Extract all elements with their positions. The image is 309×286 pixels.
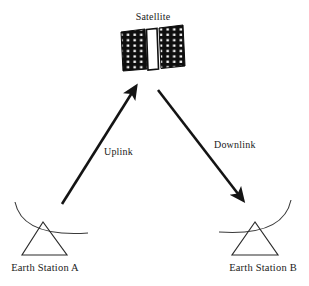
uplink-arrow[interactable]: Uplink — [62, 88, 135, 204]
satellite-left-solar-panel — [121, 29, 147, 71]
earth-station-a-dish-icon — [15, 202, 88, 234]
earth-station-a-tower-icon — [22, 222, 67, 255]
downlink-arrow[interactable]: Downlink — [158, 90, 256, 199]
satellite-right-solar-panel — [159, 25, 185, 69]
diagram-canvas: Satellite Uplink Downlink — [0, 0, 309, 286]
earth-station-b-tower-icon — [232, 222, 278, 255]
earth-station-b-label: Earth Station B — [229, 262, 297, 273]
earth-station-a-node[interactable]: Earth Station A — [11, 202, 88, 273]
satellite-body — [147, 29, 159, 71]
uplink-label: Uplink — [104, 146, 133, 157]
downlink-label: Downlink — [214, 139, 256, 150]
earth-station-b-dish-icon — [219, 200, 291, 232]
satellite-label: Satellite — [136, 11, 171, 22]
satellite-communication-diagram: Satellite Uplink Downlink — [0, 0, 309, 286]
earth-station-b-node[interactable]: Earth Station B — [219, 200, 297, 273]
earth-station-a-label: Earth Station A — [11, 262, 79, 273]
satellite-node[interactable]: Satellite — [121, 11, 185, 71]
